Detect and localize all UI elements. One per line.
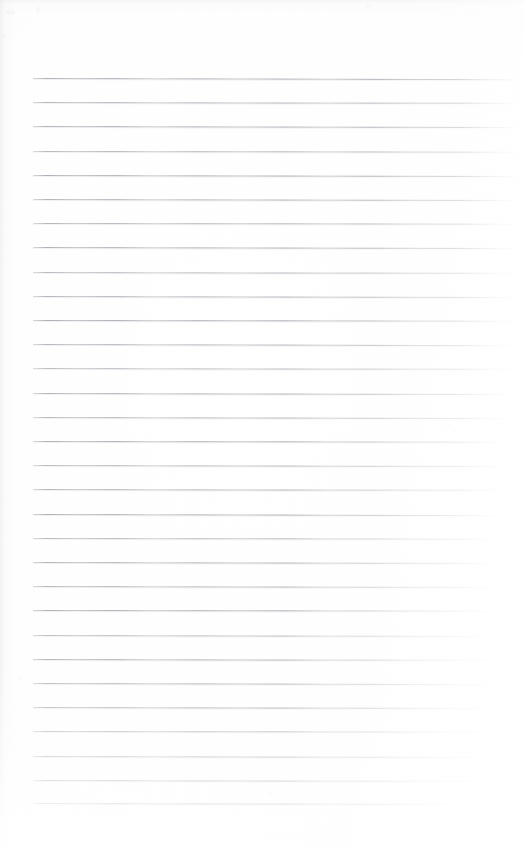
scanned-page <box>0 0 524 864</box>
paper-background <box>0 0 524 864</box>
